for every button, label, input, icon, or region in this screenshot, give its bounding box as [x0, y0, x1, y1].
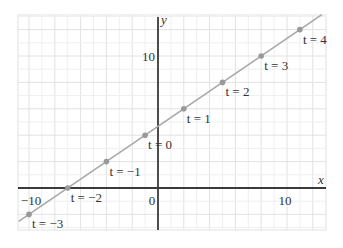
- data-point: [104, 159, 110, 165]
- point-label: t = −3: [32, 216, 63, 231]
- x-tick-label: 10: [279, 193, 292, 208]
- data-point: [26, 212, 32, 218]
- data-point: [220, 80, 226, 86]
- point-label: t = 4: [303, 32, 327, 47]
- data-point: [181, 106, 187, 112]
- data-point: [142, 132, 148, 138]
- point-label: t = 1: [187, 111, 211, 126]
- point-label: t = −1: [109, 164, 140, 179]
- x-tick-label: 0: [149, 193, 156, 208]
- x-tick-label: −10: [21, 193, 41, 208]
- parametric-line-chart: x y −1001010 t = −3t = −2t = −1t = 0t = …: [0, 0, 343, 248]
- point-label: t = 2: [226, 84, 250, 99]
- point-label: t = −2: [71, 190, 102, 205]
- y-axis-label: y: [159, 12, 167, 27]
- data-point: [258, 53, 264, 59]
- point-label: t = 3: [264, 58, 288, 73]
- point-label: t = 0: [148, 137, 172, 152]
- data-point: [65, 185, 71, 191]
- x-axis-label: x: [317, 172, 324, 187]
- y-tick-label: 10: [142, 49, 155, 64]
- data-point: [297, 27, 303, 33]
